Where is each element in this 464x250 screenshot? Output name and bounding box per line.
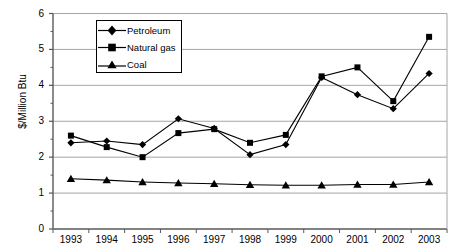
chart-legend: Petroleum Natural gas Coal (96, 20, 182, 73)
plot-area (0, 0, 464, 250)
data-point-marker (139, 141, 146, 148)
data-point-marker (211, 126, 217, 132)
data-point-marker (247, 140, 253, 146)
legend-label-petroleum: Petroleum (127, 26, 170, 36)
legend-item-petroleum: Petroleum (97, 22, 181, 39)
data-point-marker (426, 34, 432, 40)
data-point-marker (67, 139, 74, 146)
legend-item-natural-gas: Natural gas (97, 39, 181, 56)
legend-label-coal: Coal (127, 60, 147, 70)
series-coal (67, 175, 434, 189)
data-point-marker (104, 144, 110, 150)
data-point-marker (425, 178, 433, 185)
data-point-marker (354, 91, 361, 98)
data-point-marker (175, 130, 181, 136)
line-chart: $/Million Btu 0123456 199319941995199619… (0, 0, 464, 250)
data-point-marker (68, 133, 74, 139)
data-point-marker (319, 73, 325, 79)
legend-label-natural-gas: Natural gas (127, 43, 176, 53)
square-marker-icon (97, 40, 127, 55)
data-point-marker (282, 141, 289, 148)
data-point-marker (283, 132, 289, 138)
triangle-marker-icon (97, 57, 127, 72)
data-point-marker (390, 98, 396, 104)
data-point-marker (140, 154, 146, 160)
legend-item-coal: Coal (97, 56, 181, 73)
diamond-marker-icon (97, 23, 127, 38)
data-point-marker (103, 137, 110, 144)
data-point-marker (354, 64, 360, 70)
